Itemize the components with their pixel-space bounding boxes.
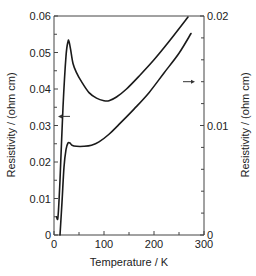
left-axis-label: Resistivity / (ohm cm) (5, 72, 17, 177)
lower-resistivity-curve (60, 34, 191, 235)
x-tick-label: 300 (195, 238, 213, 250)
right-tick-label: 0.01 (207, 120, 228, 132)
resistivity-chart: 00.010.020.030.040.050.06 00.010.02 0100… (0, 0, 256, 276)
annotation-layer (58, 80, 195, 119)
left-tick-label: 0.03 (30, 120, 51, 132)
left-tick-label: 0.01 (30, 193, 51, 205)
left-tick-label: 0.02 (30, 156, 51, 168)
x-tick-label: 100 (95, 238, 113, 250)
upper-resistivity-curve (57, 17, 189, 219)
arrow-left-icon (58, 114, 62, 118)
x-tick-label: 200 (145, 238, 163, 250)
x-axis-ticks: 0100200300 (51, 231, 213, 250)
left-tick-label: 0.06 (30, 10, 51, 22)
right-tick-label: 0.02 (207, 10, 228, 22)
left-tick-label: 0.05 (30, 47, 51, 59)
x-axis-label: Temperature / K (90, 256, 169, 268)
series-layer (57, 17, 192, 235)
arrow-right-icon (191, 80, 195, 84)
right-axis-label: Resistivity / (ohm cm) (239, 72, 251, 177)
x-tick-label: 0 (51, 238, 57, 250)
left-tick-label: 0.04 (30, 83, 51, 95)
